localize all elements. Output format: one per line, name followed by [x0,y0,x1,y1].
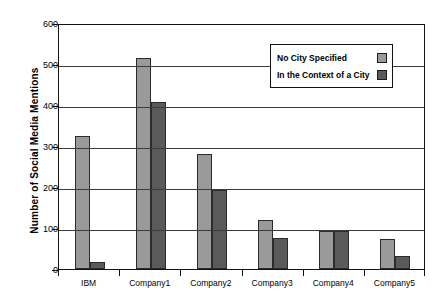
x-tick-2 [180,270,181,276]
x-axis: IBMCompany1Company2Company3Company4Compa… [58,270,425,301]
bar-ibm-series0 [75,136,90,269]
bar-company3-series0 [258,220,273,269]
bar-company1-series1 [151,102,166,269]
y-axis: 0100200300400500600 [0,0,58,301]
bar-company2-series0 [197,154,212,269]
legend: No City SpecifiedIn the Context of a Cit… [270,44,393,88]
y-tick-label-500: 500 [10,61,58,70]
bar-company5-series0 [380,239,395,269]
x-tick-4 [303,270,304,276]
y-tick-label-0: 0 [10,266,58,275]
bar-company3-series1 [273,238,288,269]
y-tick-label-200: 200 [10,184,58,193]
x-tick-0 [58,270,59,276]
x-axis-label-company1: Company1 [129,278,170,288]
bar-ibm-series1 [90,262,105,269]
x-axis-label-company3: Company3 [252,278,293,288]
bar-company1-series0 [136,58,151,269]
y-tick-label-600: 600 [10,20,58,29]
legend-item-0: No City Specified [277,49,387,66]
gridline-400 [59,107,424,108]
x-axis-label-company4: Company4 [313,278,354,288]
y-tick-label-400: 400 [10,102,58,111]
legend-swatch [377,70,387,80]
bar-company4-series1 [334,231,349,269]
y-tick-label-100: 100 [10,225,58,234]
legend-item-1: In the Context of a City [277,66,387,83]
gridline-300 [59,148,424,149]
x-tick-5 [364,270,365,276]
legend-swatch [377,53,387,63]
x-tick-1 [119,270,120,276]
legend-label: No City Specified [277,53,370,63]
x-axis-label-company2: Company2 [190,278,231,288]
y-tick-label-300: 300 [10,143,58,152]
gridline-100 [59,230,424,231]
bar-chart: Number of Social Media Mentions 01002003… [0,0,440,301]
x-axis-label-ibm: IBM [81,278,96,288]
legend-label: In the Context of a City [277,70,370,80]
gridline-200 [59,189,424,190]
x-tick-6 [424,270,425,276]
bar-company4-series0 [319,231,334,269]
x-tick-3 [242,270,243,276]
x-axis-label-company5: Company5 [374,278,415,288]
bar-company5-series1 [395,256,410,269]
